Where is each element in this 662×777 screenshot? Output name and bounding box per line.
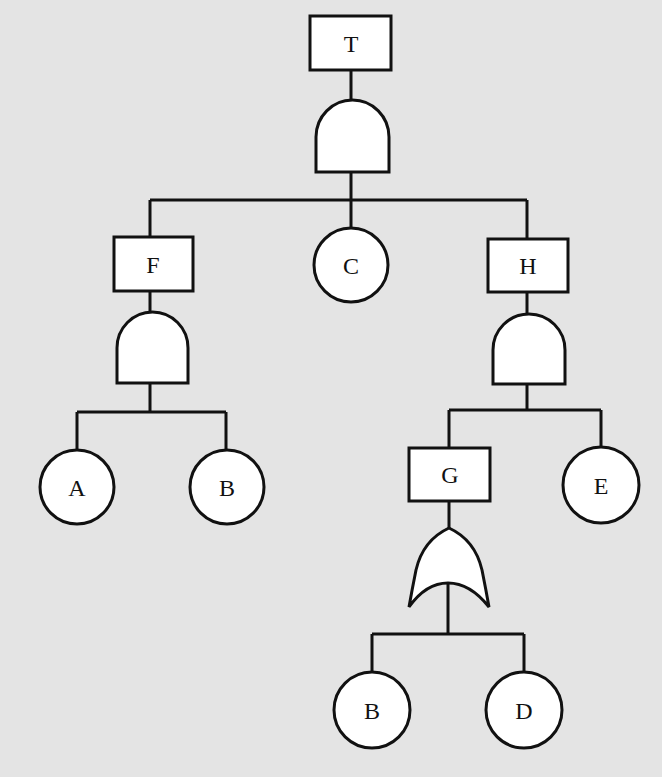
- event-label-B: B: [219, 475, 235, 501]
- and-gate-icon: [316, 100, 389, 172]
- event-label-H: H: [519, 253, 536, 279]
- fault-tree-diagram: T F C H A B G E B: [0, 0, 662, 777]
- event-label-F: F: [146, 252, 159, 278]
- event-box-H: H: [488, 239, 568, 292]
- basic-event-C: C: [314, 228, 388, 302]
- event-label-A: A: [68, 475, 86, 501]
- event-label-D: D: [515, 698, 532, 724]
- event-box-T: T: [310, 16, 391, 70]
- event-label-T: T: [344, 31, 359, 57]
- event-box-G: G: [409, 448, 490, 501]
- event-label-B: B: [364, 698, 380, 724]
- basic-event-B: B: [334, 672, 410, 748]
- event-label-G: G: [441, 462, 458, 488]
- event-label-C: C: [343, 253, 359, 279]
- and-gate-icon: [117, 312, 188, 383]
- basic-event-E: E: [563, 447, 639, 523]
- basic-event-D: D: [486, 672, 562, 748]
- event-label-E: E: [594, 473, 609, 499]
- basic-event-B: B: [190, 450, 264, 524]
- basic-event-A: A: [40, 450, 114, 524]
- event-box-F: F: [114, 237, 193, 291]
- and-gate-icon: [493, 314, 565, 384]
